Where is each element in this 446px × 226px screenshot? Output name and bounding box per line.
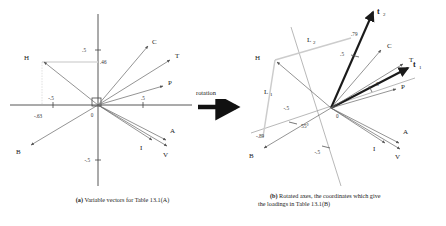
vector-I	[331, 108, 385, 143]
panel-b-ticks	[289, 55, 372, 148]
tick-neg-half-x: -.5	[48, 95, 54, 101]
panel-a-caption: (a) Variable vectors for Table 13.1(A)	[35, 196, 210, 204]
label-P: P	[401, 83, 405, 91]
vector-A	[331, 108, 399, 143]
label-H: H	[24, 54, 29, 62]
label-P: P	[168, 79, 172, 87]
panel-b-vectors	[264, 50, 403, 149]
label-A: A	[170, 127, 175, 135]
panel-b-caption: (b) Rotated axes, the coordinates which …	[258, 192, 438, 209]
loading-label-L2: L	[307, 36, 311, 44]
tick-pos-half-y: .5	[340, 51, 344, 57]
two-panel-vector-figure: H B C T P I A V .5 -.5 -.5 .5 -.63 .46 0…	[0, 0, 446, 226]
axis-t2	[331, 12, 373, 108]
axis-label-t2: t	[377, 7, 380, 16]
panel-b-vector-labels: H B C T P I A V	[249, 42, 414, 161]
loading-label-L1-sub: 1	[270, 92, 273, 97]
rotation-label: rotation	[196, 89, 216, 96]
vector-V	[331, 108, 400, 149]
value-79: .79	[351, 31, 358, 37]
label-C: C	[387, 42, 392, 50]
panel-b-caption-line2: the loadings in Table 13.1(B)	[258, 200, 330, 207]
vector-P	[98, 86, 163, 105]
label-B: B	[249, 152, 254, 160]
tick-pos-half-x: .5	[141, 95, 145, 101]
tick-neg-half-x: -.5	[283, 105, 289, 111]
vector-C	[331, 50, 381, 108]
label-V: V	[163, 151, 168, 159]
panel-a-caption-tag: (a)	[76, 196, 83, 203]
panel-b-loading-labels: L 2 L 1	[264, 36, 316, 97]
label-T: T	[175, 52, 180, 60]
value-46: .46	[100, 59, 107, 65]
vector-T	[98, 60, 170, 105]
panel-b-plot: H B C T P I A V t 2 t 1 L 2 L 1 .5 -.5 -…	[223, 0, 446, 190]
value-neg63: -.63	[34, 113, 43, 119]
vector-I	[98, 105, 152, 140]
axis-label-t1-sub: 1	[419, 65, 422, 70]
origin-label-b: 0	[336, 113, 339, 119]
tick-pos-half-y: .5	[82, 47, 86, 53]
panel-a-caption-text: Variable vectors for Table 13.1(A)	[83, 196, 169, 203]
label-H: H	[255, 54, 260, 62]
panel-b-caption-line1: Rotated axes, the coordinates which give	[278, 192, 381, 199]
label-C: C	[152, 38, 157, 46]
axis-t1	[331, 68, 408, 108]
label-I: I	[373, 145, 376, 153]
label-I: I	[140, 144, 143, 152]
panel-b-caption-tag: (b)	[270, 192, 278, 199]
panel-b-axis-names: t 2 t 1	[377, 7, 422, 70]
origin-label-a: 0	[91, 112, 94, 118]
tick-neg-half-y: -.5	[84, 157, 90, 163]
label-B: B	[16, 148, 21, 156]
axis-label-t1: t	[413, 60, 416, 69]
label-V: V	[395, 153, 400, 161]
tick-pos-half-x: .5	[375, 81, 379, 87]
panel-a-plot: H B C T P I A V .5 -.5 -.5 .5 -.63 .46 0	[0, 0, 223, 190]
axis-label-t2-sub: 2	[383, 12, 386, 17]
vector-V	[98, 105, 167, 146]
loading-label-L1: L	[264, 88, 268, 96]
vector-B	[264, 108, 331, 148]
tick-neg-half-y: -.5	[314, 149, 320, 155]
label-A: A	[403, 128, 408, 136]
angle-label-55: 55°	[301, 123, 309, 129]
panel-a-axes	[10, 14, 192, 186]
loading-label-L2-sub: 2	[313, 40, 316, 45]
value-neg89: -.89	[256, 133, 265, 139]
vector-A	[98, 105, 166, 140]
vector-B	[31, 105, 98, 145]
